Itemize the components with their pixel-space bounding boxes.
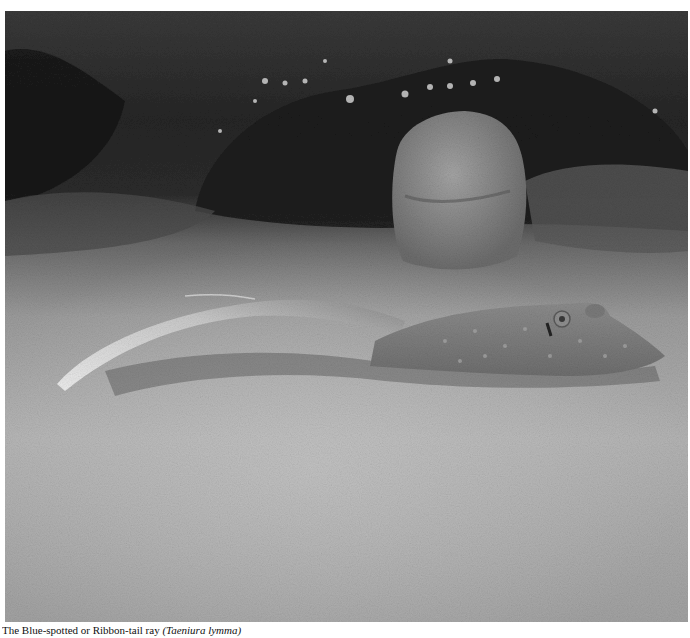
caption-text: The Blue-spotted or Ribbon-tail ray (2, 624, 160, 636)
stingray-photograph (5, 11, 688, 622)
caption-species: (Taeniura lymma) (162, 624, 241, 636)
photo-illustration (5, 11, 688, 622)
figure-caption: The Blue-spotted or Ribbon-tail ray (Tae… (2, 624, 688, 638)
